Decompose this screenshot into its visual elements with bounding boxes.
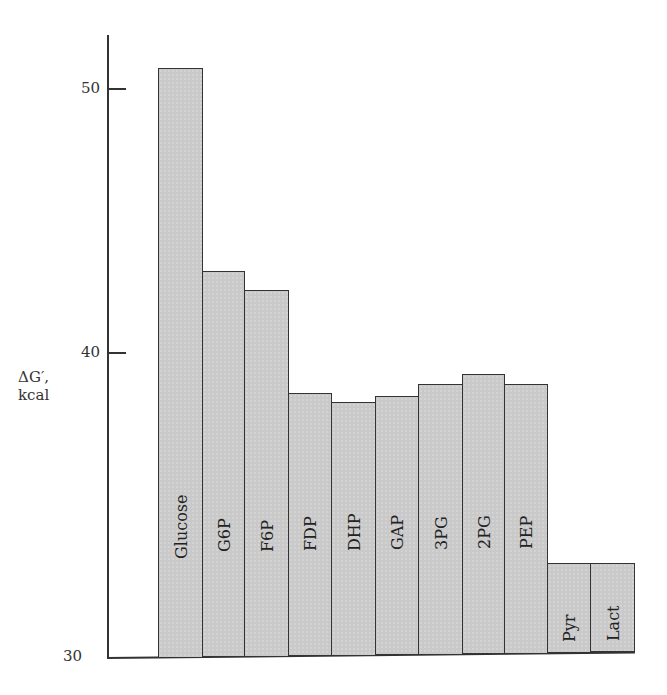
bar-lact: Lact — [590, 563, 635, 652]
bar-label: PEP — [517, 515, 536, 548]
bar-label: GAP — [388, 515, 407, 550]
bar-f6p: F6P — [244, 290, 289, 657]
bar-label: G6P — [214, 519, 233, 553]
bar-label: DHP — [344, 513, 363, 551]
bar-glucose: Glucose — [158, 68, 203, 658]
y-tick-40 — [108, 352, 126, 354]
y-axis-label-line1: ΔG′, — [18, 368, 49, 386]
bar-label: 2PG — [474, 515, 493, 549]
bar-gap: GAP — [375, 396, 419, 655]
bar-pep: PEP — [504, 384, 548, 654]
bar-label: FDP — [301, 517, 320, 552]
bar-label: 3PG — [431, 516, 450, 550]
y-tick-label-40: 40 — [60, 343, 100, 361]
y-axis-label: ΔG′, kcal — [18, 368, 49, 404]
bar-3pg: 3PG — [418, 384, 463, 655]
bar-g6p: G6P — [202, 271, 245, 657]
bar-label: F6P — [257, 520, 276, 552]
bar-chart: 50 40 30 ΔG′, kcal GlucoseG6PF6PFDPDHPGA… — [0, 0, 667, 695]
bar-2pg: 2PG — [462, 374, 505, 654]
bar-pyr: Pyr — [547, 563, 591, 652]
bar-fdp: FDP — [288, 393, 332, 657]
y-axis-label-line2: kcal — [18, 386, 49, 404]
bar-label: Lact — [603, 606, 622, 642]
y-tick-label-50: 50 — [60, 79, 100, 97]
bar-label: Pyr — [560, 614, 579, 641]
y-axis — [107, 35, 109, 659]
y-tick-50 — [108, 88, 126, 90]
bar-label: Glucose — [171, 495, 190, 559]
bar-dhp: DHP — [331, 402, 376, 656]
y-tick-label-30: 30 — [42, 647, 82, 665]
